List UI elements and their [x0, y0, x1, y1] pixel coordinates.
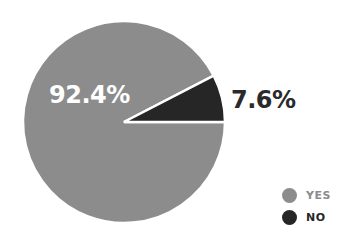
yes-percentage-label: 92.4%	[49, 83, 130, 107]
legend-item-no: NO	[282, 206, 331, 228]
legend-item-yes: YES	[282, 184, 331, 206]
no-percentage-label: 7.6%	[231, 88, 296, 112]
legend-label-no: NO	[306, 211, 326, 224]
legend-swatch-yes	[282, 188, 297, 203]
chart-legend: YES NO	[282, 184, 331, 228]
legend-swatch-no	[282, 210, 297, 225]
legend-label-yes: YES	[306, 189, 331, 202]
